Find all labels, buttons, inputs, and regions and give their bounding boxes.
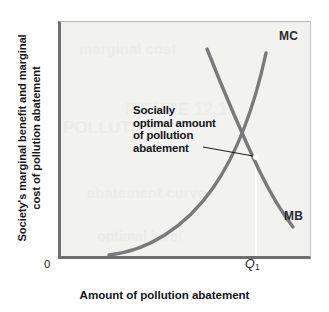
annotation-line-4: abatement xyxy=(133,142,216,155)
q1-letter: Q xyxy=(245,257,255,271)
q1-subscript: 1 xyxy=(255,262,260,272)
intersection-point-marker xyxy=(253,154,258,159)
economics-chart-figure: Society's marginal benefit and marginal … xyxy=(0,0,329,312)
y-axis-title-line1: Society's marginal benefit and marginal xyxy=(16,34,28,241)
annotation-line-1: Socially xyxy=(133,104,216,117)
x-axis-title: Amount of pollution abatement xyxy=(0,288,329,301)
annotation-line-3: of pollution xyxy=(133,129,216,142)
y-axis-title: Society's marginal benefit and marginal … xyxy=(0,18,58,258)
y-axis-title-line2: cost of pollution abatement xyxy=(29,34,43,241)
socially-optimal-annotation: Socially optimal amount of pollution aba… xyxy=(133,104,216,154)
mb-curve xyxy=(207,49,293,227)
plot-area: marginal cost FIGURE 12.1 POLLUTION abat… xyxy=(58,21,311,259)
q1-tick-label: Q1 xyxy=(245,257,259,271)
mb-curve-label: MB xyxy=(284,209,303,223)
origin-label: 0 xyxy=(44,258,50,270)
annotation-line-2: optimal amount xyxy=(133,117,216,130)
mc-curve-label: MC xyxy=(279,29,298,43)
